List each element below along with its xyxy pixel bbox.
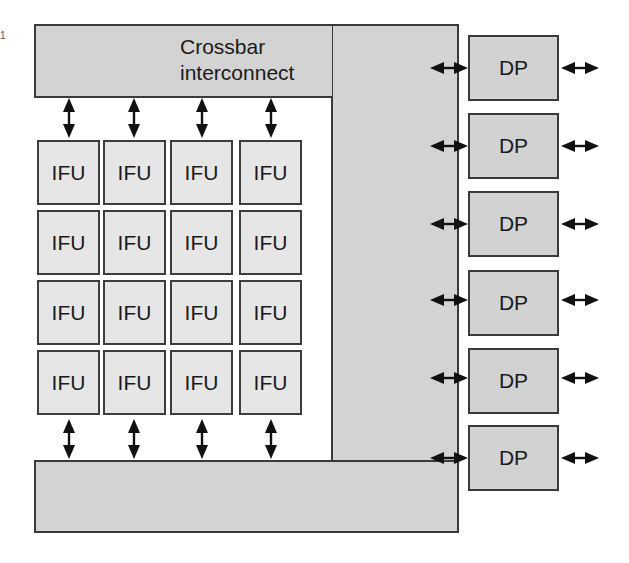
arrows-layer — [0, 0, 629, 563]
